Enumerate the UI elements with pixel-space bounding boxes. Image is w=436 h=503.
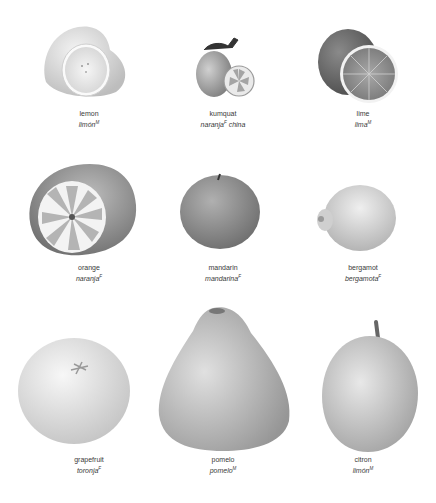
label-mandarin: mandarin mandarinaF [163, 264, 283, 283]
orange-illustration [22, 160, 138, 258]
fruit-translation: naranjaF [29, 273, 149, 284]
fruit-translation: limaM [303, 119, 423, 130]
label-lime: lime limaM [303, 110, 423, 129]
lime-illustration [314, 26, 402, 106]
fruit-name: mandarin [163, 264, 283, 273]
fruit-translation: bergamotaF [303, 273, 423, 284]
label-lemon: lemon limónM [29, 110, 149, 129]
fruit-translation: naranjaF china [163, 119, 283, 130]
fruit-name: citron [303, 456, 423, 465]
label-kumquat: kumquat naranjaF china [163, 110, 283, 129]
fruit-translation: limónM [303, 465, 423, 476]
label-bergamot: bergamot bergamotaF [303, 264, 423, 283]
fruit-name: pomelo [163, 456, 283, 465]
label-orange: orange naranjaF [29, 264, 149, 283]
fruit-name: kumquat [163, 110, 283, 119]
fruit-name: grapefruit [29, 456, 149, 465]
fruit-translation: pomeloM [163, 465, 283, 476]
label-citron: citron limónM [303, 456, 423, 475]
label-grapefruit: grapefruit toronjaF [29, 456, 149, 475]
fruit-translation: limónM [29, 119, 149, 130]
bergamot-illustration [312, 182, 398, 252]
grapefruit-illustration [16, 336, 132, 446]
pomelo-illustration [155, 303, 295, 453]
fruit-translation: toronjaF [29, 465, 149, 476]
fruit-name: lemon [29, 110, 149, 119]
mandarin-illustration [178, 170, 262, 250]
fruit-name: bergamot [303, 264, 423, 273]
fruit-name: orange [29, 264, 149, 273]
citron-illustration [318, 318, 422, 454]
label-pomelo: pomelo pomeloM [163, 456, 283, 475]
fruit-translation: mandarinaF [163, 273, 283, 284]
lemon-illustration [38, 22, 138, 100]
kumquat-illustration [190, 36, 256, 98]
fruit-name: lime [303, 110, 423, 119]
